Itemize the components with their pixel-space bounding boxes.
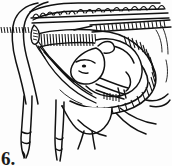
fetus-eye [82, 65, 86, 68]
figure-number-label: 6. [1, 149, 15, 166]
anatomical-line-drawing [0, 0, 172, 166]
figure-container: 6. [0, 0, 172, 166]
